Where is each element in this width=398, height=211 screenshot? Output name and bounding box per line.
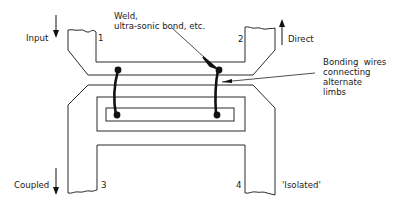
bond-point-right-bottom [214,112,221,119]
port-1-number: 1 [98,33,103,43]
bond-point-right-top [216,67,223,74]
port-3-number: 3 [101,180,106,190]
bonding-annotation-line1: Bonding wires [323,57,387,67]
lower-conductor [68,85,275,195]
weld-annotation-line2: ultra-sonic bond, etc. [114,21,205,31]
port-arrows [53,15,285,195]
bond-point-left-top [115,67,122,74]
lange-coupler-diagram: Input 1 Direct 2 Coupled 3 'Isolated' 4 … [0,0,398,211]
port-4-number: 4 [236,180,241,190]
port-2-number: 2 [238,34,243,44]
port-3-label: Coupled [14,180,49,190]
bonding-annotation-line4: limbs [323,87,347,97]
port-4-label: 'Isolated' [282,180,321,190]
direct-arrow-up-icon [279,19,285,45]
bonding-wires [114,67,223,119]
bonding-annotation-line3: alternate [323,77,362,87]
bonding-annotation-line2: connecting [323,67,371,77]
port-2-label: Direct [288,34,314,44]
weld-annotation-line1: Weld, [114,11,138,21]
bond-point-left-bottom [114,112,121,119]
coupled-arrow-down-icon [53,168,59,195]
port-1-label: Input [26,33,49,43]
input-arrow-down-icon [53,15,59,38]
